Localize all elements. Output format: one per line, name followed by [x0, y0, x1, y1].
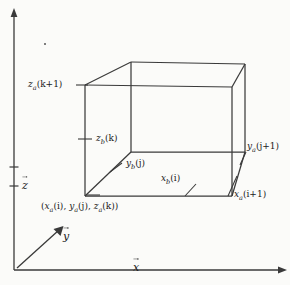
depth-edge-top-left — [85, 62, 131, 85]
front-top-edge — [85, 85, 232, 87]
tuple-p3-arg: (k) — [102, 201, 114, 211]
label-y-b-j-arg: (j) — [135, 158, 145, 168]
axis-group — [14, 14, 281, 270]
depth-edge-top-right — [232, 64, 245, 87]
label-x-b-i-arg: (i) — [170, 173, 180, 183]
figure-canvas: za(k+1) zb(k) yb(j) xb(i) ya(j+1) xa(i+1… — [0, 0, 290, 285]
label-z-a-k-plus-1-arg: (k+1) — [37, 79, 63, 89]
tuple-p1-arg: (i) — [53, 201, 63, 211]
leader-x-b-i — [185, 184, 196, 196]
tuple-p2-arg: (j) — [78, 201, 88, 211]
y-axis-label: y — [63, 230, 69, 243]
label-z-b-k: zb(k) — [96, 134, 117, 143]
label-x-a-i-plus-1-arg: (i+1) — [243, 189, 266, 199]
depth-edge-bottom-left — [85, 152, 131, 196]
z-axis-label-wrap: z — [22, 174, 28, 193]
leader-y-b-j — [110, 163, 122, 172]
z-axis-label: z — [22, 179, 28, 192]
label-y-b-j: yb(j) — [126, 159, 145, 168]
label-origin-coordinate-tuple: (xa(i), ya(j), za(k)) — [41, 202, 118, 211]
leader-y-a-j1 — [240, 152, 246, 165]
tuple-close-paren: ) — [115, 201, 119, 211]
y-axis-line — [17, 230, 59, 268]
cube-back-face — [131, 62, 245, 152]
scan-speck — [44, 43, 46, 45]
label-z-a-k-plus-1: za(k+1) — [28, 80, 62, 89]
label-z-b-k-arg: (k) — [105, 133, 117, 143]
x-axis-arrowhead — [278, 267, 287, 274]
x-axis-label-wrap: x — [133, 256, 139, 275]
label-y-a-j-plus-1-arg: (j+1) — [256, 141, 279, 151]
z-axis-arrowhead — [11, 8, 18, 17]
back-top-edge — [131, 62, 245, 64]
label-x-a-i-plus-1: xa(i+1) — [234, 190, 266, 199]
x-axis-label: x — [133, 261, 139, 274]
label-x-b-i: xb(i) — [161, 174, 180, 183]
y-axis-label-wrap: y — [63, 225, 69, 244]
label-y-a-j-plus-1: ya(j+1) — [247, 142, 279, 151]
y-axis-arrowhead — [54, 226, 64, 236]
